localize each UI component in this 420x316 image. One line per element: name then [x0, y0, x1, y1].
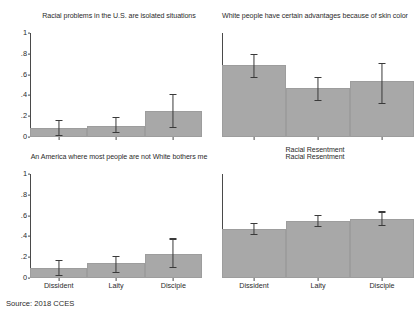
y-tick-label: .4 — [21, 232, 27, 240]
error-bar-cap-lower — [113, 132, 120, 133]
y-tick-mark — [28, 236, 31, 237]
y-tick-label: .8 — [21, 191, 27, 199]
y-tick-mark — [28, 194, 31, 195]
x-tick-mark — [254, 137, 255, 140]
source-note: Source: 2018 CCES — [6, 299, 74, 309]
error-bar-cap-upper — [55, 260, 62, 261]
error-bar-cap-upper — [251, 223, 258, 224]
error-bar-cap-upper — [315, 215, 322, 216]
error-bar-stem — [381, 211, 382, 225]
error-bar-stem — [115, 256, 116, 272]
error-bar-cap-lower — [55, 135, 62, 136]
panel-xlabel-top-right: Racial Resentment — [210, 146, 420, 155]
y-tick-label: .8 — [21, 50, 27, 58]
error-bar-cap-lower — [315, 100, 322, 101]
y-tick-label: .6 — [21, 71, 27, 79]
y-tick-mark — [28, 33, 31, 34]
error-bar-stem — [173, 94, 174, 126]
y-tick-label: 0 — [23, 133, 27, 141]
error-bar-cap-lower — [55, 275, 62, 276]
x-tick-mark — [318, 137, 319, 140]
error-bar-cap-lower — [379, 225, 386, 226]
panel-title-top-right: White people have certain advantages bec… — [210, 12, 420, 21]
y-axis-line — [30, 174, 31, 278]
error-bar-stem — [317, 215, 318, 226]
x-tick-mark — [58, 137, 59, 140]
panel-top-right: White people have certain advantages bec… — [210, 12, 420, 144]
error-bar-cap-lower — [251, 234, 258, 235]
y-axis-line — [30, 33, 31, 137]
panel-bottom-right: Racial Resentment DissidentLaityDisciple — [210, 153, 420, 293]
y-tick-mark — [28, 116, 31, 117]
error-bar-stem — [381, 63, 382, 103]
error-bar-stem — [253, 54, 254, 77]
x-tick-label-disciple: Disciple — [369, 281, 394, 290]
error-bar-stem — [253, 223, 254, 234]
error-bar-stem — [58, 120, 59, 135]
figure-panel-grid: Racial problems in the U.S. are isolated… — [0, 0, 420, 316]
y-tick-mark — [28, 95, 31, 96]
x-tick-mark — [173, 137, 174, 140]
error-bar-cap-lower — [170, 267, 177, 268]
error-bar-cap-upper — [379, 63, 386, 64]
panel-bottom-left: An America where most people are not Whi… — [0, 153, 210, 293]
error-bar-stem — [58, 260, 59, 275]
y-tick-label: 1 — [23, 170, 27, 178]
error-bar-stem — [317, 77, 318, 100]
error-bar-cap-upper — [55, 120, 62, 121]
error-bar-cap-lower — [379, 103, 386, 104]
error-bar-cap-upper — [170, 94, 177, 95]
bar-dissident — [222, 229, 286, 278]
error-bar-cap-lower — [170, 127, 177, 128]
error-bar-cap-lower — [251, 77, 258, 78]
y-tick-mark — [28, 257, 31, 258]
x-tick-label-dissident: Dissident — [239, 281, 269, 290]
panel-title-top-left: Racial problems in the U.S. are isolated… — [0, 12, 224, 21]
bar-disciple — [350, 219, 414, 278]
error-bar-stem — [115, 117, 116, 132]
y-tick-mark — [28, 53, 31, 54]
error-bar-cap-upper — [315, 77, 322, 78]
plot-area-bottom-right: DissidentLaityDisciple — [222, 174, 414, 278]
error-bar-cap-upper — [113, 117, 120, 118]
x-tick-label-laity: Laity — [108, 281, 123, 290]
panel-top-left: Racial problems in the U.S. are isolated… — [0, 12, 210, 144]
panel-title-bottom-left: An America where most people are not Whi… — [0, 153, 224, 162]
y-tick-label: 1 — [23, 29, 27, 37]
y-tick-label: .6 — [21, 212, 27, 220]
y-tick-mark — [28, 74, 31, 75]
error-bar-cap-lower — [315, 226, 322, 227]
y-tick-label: 0 — [23, 274, 27, 282]
x-tick-mark — [116, 137, 117, 140]
x-tick-label-disciple: Disciple — [161, 281, 186, 290]
error-bar-cap-upper — [251, 54, 258, 55]
y-tick-label: .4 — [21, 91, 27, 99]
y-tick-label: .2 — [21, 112, 27, 120]
x-tick-label-laity: Laity — [310, 281, 325, 290]
error-bar-cap-upper — [379, 211, 386, 212]
y-tick-mark — [28, 174, 31, 175]
plot-area-top-left: 0.2.4.6.81 — [30, 33, 202, 137]
y-tick-label: .2 — [21, 253, 27, 261]
error-bar-cap-upper — [113, 256, 120, 257]
bar-laity — [286, 221, 350, 278]
error-bar-cap-lower — [113, 272, 120, 273]
error-bar-cap-upper — [170, 238, 177, 239]
y-tick-mark — [28, 215, 31, 216]
error-bar-stem — [173, 238, 174, 266]
x-tick-mark — [382, 137, 383, 140]
plot-area-bottom-left: 0.2.4.6.81DissidentLaityDisciple — [30, 174, 202, 278]
x-tick-label-dissident: Dissident — [44, 281, 74, 290]
plot-area-top-right — [222, 33, 414, 137]
